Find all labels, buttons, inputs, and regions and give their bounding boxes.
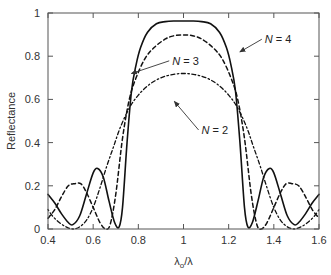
x-tick-label: 0.8 [131,234,146,246]
y-tick-label: 0.4 [25,137,40,149]
x-axis-title: λo/λ [174,255,193,270]
annotation-label: N = 4 [265,33,292,45]
annotation-label: N = 2 [202,124,229,136]
x-tick-label: 0.4 [40,234,55,246]
x-tick-label: 0.6 [86,234,101,246]
x-axis-title-tail: /λ [184,255,193,267]
y-tick-label: 0.6 [25,93,40,105]
x-tick-label: 1.4 [266,234,281,246]
series-layer [48,21,319,229]
y-tick-label: 0.8 [25,50,40,62]
y-axis-title: Reflectance [5,92,17,150]
annotation-label: N = 3 [172,55,199,67]
annotation-arrow [240,39,262,52]
annotation-value: = 3 [180,55,199,67]
x-tick-label: 1 [180,234,186,246]
x-tick-label: 1.6 [311,234,326,246]
annotation-n: N [202,124,210,136]
y-tick-label: 1 [34,7,40,19]
annotation-arrow [174,102,198,130]
annotation-n: N [265,33,273,45]
y-tick-label: 0 [34,223,40,235]
series-line-n2 [48,73,319,229]
annotation-value: = 4 [273,33,292,45]
annotation-value: = 2 [210,124,229,136]
reflectance-chart: N = 4N = 3N = 2 0.40.60.811.21.41.600.20… [0,0,331,275]
annotation-n: N [172,55,180,67]
x-tick-label: 1.2 [221,234,236,246]
y-tick-label: 0.2 [25,180,40,192]
annotation-layer: N = 4N = 3N = 2 [132,33,292,136]
